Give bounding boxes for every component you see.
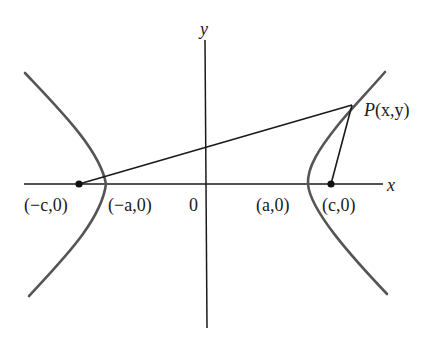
point-p-coords: (x,y) xyxy=(375,100,410,121)
right-focus-label: (c,0) xyxy=(322,195,355,216)
y-axis xyxy=(205,40,207,328)
x-axis-label: x xyxy=(386,175,395,195)
y-axis-label: y xyxy=(198,19,208,39)
segment-left-focus-to-p xyxy=(79,105,352,184)
hyperbola-diagram: y x 0 (−c,0) (−a,0) (a,0) (c,0) P(x,y) xyxy=(0,0,448,338)
left-focus-label: (−c,0) xyxy=(24,195,68,216)
left-vertex-label: (−a,0) xyxy=(108,195,152,216)
point-p-label: P(x,y) xyxy=(363,100,410,121)
segment-right-focus-to-p xyxy=(331,105,352,184)
left-focus-dot xyxy=(75,180,82,187)
right-focus-dot xyxy=(327,180,334,187)
right-vertex-label: (a,0) xyxy=(256,195,289,216)
point-p-name: P xyxy=(363,100,375,120)
origin-label: 0 xyxy=(189,195,198,215)
